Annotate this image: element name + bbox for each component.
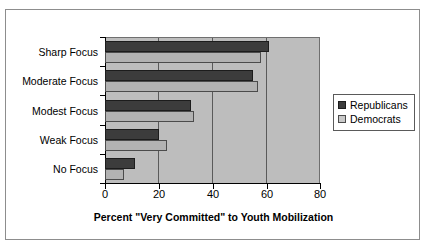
y-label-weak-focus: Weak Focus [40,135,98,146]
legend-swatch-republicans-icon [338,101,346,109]
legend-item-democrats: Democrats [338,112,410,126]
x-tick-label-60: 60 [252,189,282,200]
chart-legend: Republicans Democrats [333,94,415,131]
bar-republicans-no-focus [105,158,135,169]
x-tick-label-20: 20 [144,189,174,200]
bar-democrats-no-focus [105,169,124,180]
y-label-no-focus: No Focus [53,164,98,175]
y-tick-0 [100,37,105,38]
bar-democrats-moderate-focus [105,81,258,92]
legend-label-republicans: Republicans [350,100,408,111]
bar-republicans-modest-focus [105,100,191,111]
legend-label-democrats: Democrats [350,114,401,125]
bar-republicans-sharp-focus [105,41,269,52]
x-axis-title: Percent "Very Committed" to Youth Mobili… [0,212,427,223]
y-tick-1 [100,66,105,67]
legend-swatch-democrats-icon [338,115,346,123]
bar-democrats-sharp-focus [105,52,261,63]
x-tick-label-40: 40 [198,189,228,200]
y-tick-5 [100,183,105,184]
x-tick-label-80: 80 [305,189,335,200]
legend-item-republicans: Republicans [338,98,410,112]
bar-democrats-weak-focus [105,140,167,151]
x-tick-label-0: 0 [90,189,120,200]
y-label-moderate-focus: Moderate Focus [22,76,98,87]
y-tick-3 [100,125,105,126]
gridline-60 [266,38,267,183]
y-tick-4 [100,154,105,155]
bar-democrats-modest-focus [105,111,194,122]
bar-republicans-moderate-focus [105,70,253,81]
chart-figure: Sharp Focus Moderate Focus Modest Focus … [0,0,427,247]
bar-republicans-weak-focus [105,129,159,140]
y-label-modest-focus: Modest Focus [32,106,98,117]
y-label-sharp-focus: Sharp Focus [38,47,98,58]
y-tick-2 [100,95,105,96]
